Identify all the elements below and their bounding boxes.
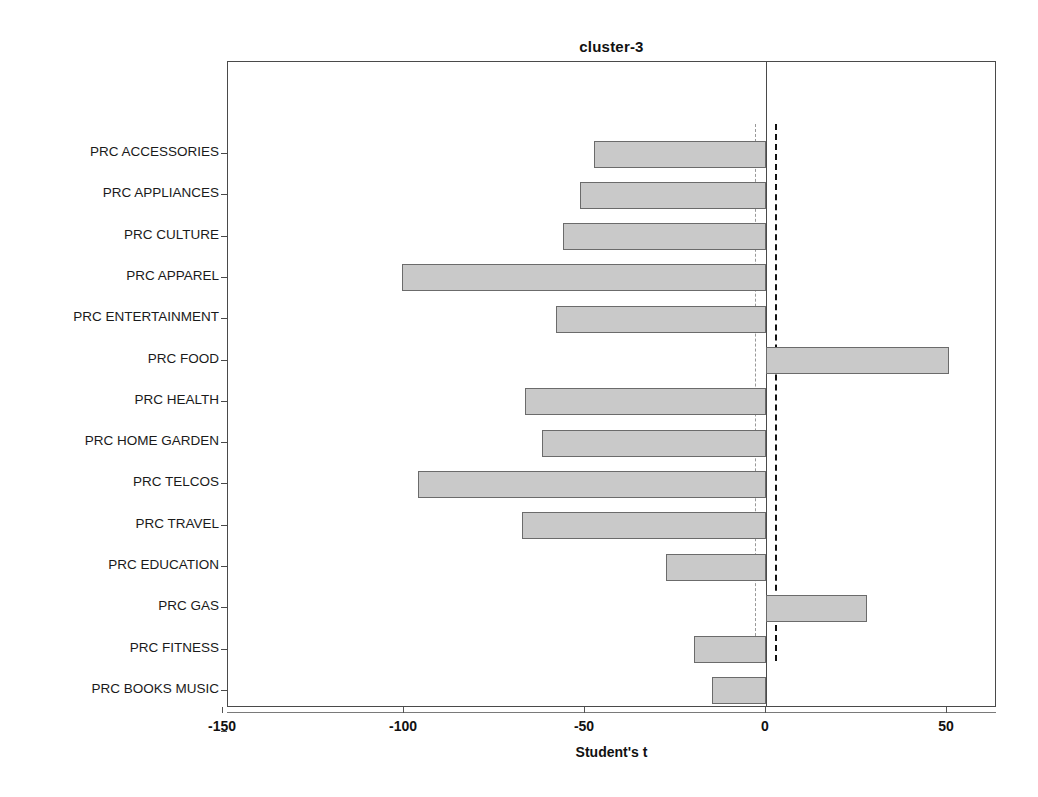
category-label: PRC FITNESS <box>0 640 219 655</box>
category-tick <box>221 607 227 608</box>
category-label: PRC APPLIANCES <box>0 185 219 200</box>
category-label: PRC TELCOS <box>0 474 219 489</box>
bar <box>694 636 766 663</box>
category-tick <box>221 401 227 402</box>
bar <box>542 430 766 457</box>
x-tick <box>765 707 766 713</box>
category-tick <box>221 442 227 443</box>
category-tick <box>221 483 227 484</box>
x-tick-label: -100 <box>389 718 417 734</box>
category-tick <box>221 360 227 361</box>
category-tick <box>221 566 227 567</box>
bar <box>556 306 766 333</box>
category-tick <box>221 525 227 526</box>
significance-reference-line-2 <box>775 124 777 661</box>
category-label: PRC GAS <box>0 598 219 613</box>
category-tick <box>221 153 227 154</box>
category-tick <box>221 649 227 650</box>
bar <box>563 223 766 250</box>
category-label: PRC CULTURE <box>0 227 219 242</box>
x-tick-label: -150 <box>208 718 236 734</box>
bar <box>525 388 766 415</box>
category-label: PRC HOME GARDEN <box>0 433 219 448</box>
chart-container: cluster-3 PRC ACCESSORIESPRC APPLIANCESP… <box>0 0 1038 797</box>
category-tick <box>221 277 227 278</box>
category-tick <box>221 690 227 691</box>
category-tick <box>221 236 227 237</box>
x-tick <box>403 707 404 713</box>
x-axis-title: Student's t <box>227 744 996 760</box>
bar <box>522 512 766 539</box>
plot-inner <box>228 62 995 706</box>
bar <box>402 264 766 291</box>
category-label: PRC HEALTH <box>0 392 219 407</box>
x-tick <box>946 707 947 713</box>
bar <box>666 554 766 581</box>
x-axis-line <box>227 712 996 713</box>
bar <box>580 182 766 209</box>
x-tick <box>584 707 585 713</box>
plot-area <box>227 61 996 707</box>
bar <box>766 595 867 622</box>
category-tick <box>221 194 227 195</box>
bar <box>418 471 766 498</box>
x-tick-label: -50 <box>574 718 594 734</box>
x-tick-label: 0 <box>761 718 769 734</box>
bar <box>766 347 949 374</box>
category-tick <box>221 318 227 319</box>
category-label: PRC BOOKS MUSIC <box>0 681 219 696</box>
bar <box>594 141 766 168</box>
category-label: PRC FOOD <box>0 351 219 366</box>
category-label: PRC ENTERTAINMENT <box>0 309 219 324</box>
category-label: PRC ACCESSORIES <box>0 144 219 159</box>
category-label: PRC EDUCATION <box>0 557 219 572</box>
x-tick <box>222 707 223 713</box>
bar <box>712 677 766 704</box>
category-label: PRC APPAREL <box>0 268 219 283</box>
category-label: PRC TRAVEL <box>0 516 219 531</box>
x-tick-label: 50 <box>938 718 954 734</box>
chart-title: cluster-3 <box>227 38 996 55</box>
